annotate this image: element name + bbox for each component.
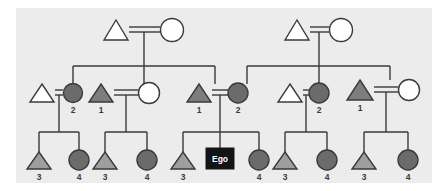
gen1-right-male-triangle[interactable] bbox=[285, 20, 309, 40]
gen3-row: 3 4 3 4 3 Ego 4 bbox=[27, 148, 418, 182]
gen1-left-male-triangle[interactable] bbox=[104, 20, 128, 40]
ego-label: Ego bbox=[212, 154, 228, 164]
gen2-person-4-circle[interactable] bbox=[139, 83, 160, 104]
gen1-couple-left bbox=[73, 19, 215, 91]
gen2-person-2-circle[interactable] bbox=[64, 84, 83, 103]
gen3-person-9-circle[interactable] bbox=[317, 150, 337, 170]
gen2-person-9-label: 1 bbox=[358, 103, 363, 113]
gen2-person-8-circle[interactable] bbox=[309, 83, 329, 103]
gen3-person-8-label: 3 bbox=[283, 172, 288, 182]
pedigree-canvas: 2 1 1 bbox=[16, 8, 432, 183]
gen3-person-4-label: 4 bbox=[145, 172, 150, 182]
gen2-person-7-triangle[interactable] bbox=[278, 84, 302, 102]
gen2-person-1-triangle[interactable] bbox=[30, 84, 54, 102]
gen2-person-6-circle[interactable] bbox=[228, 83, 248, 103]
gen2-person-3-triangle[interactable] bbox=[89, 84, 113, 102]
gen3-person-5-label: 3 bbox=[181, 172, 186, 182]
gen2-person-10-circle[interactable] bbox=[399, 80, 420, 101]
gen2-union-a: 2 bbox=[30, 84, 83, 153]
gen3-person-5-triangle[interactable] bbox=[171, 152, 195, 169]
gen3-person-9-label: 4 bbox=[325, 172, 330, 182]
gen2-person-9-triangle[interactable] bbox=[347, 80, 373, 100]
gen2-union-e: 1 bbox=[347, 80, 420, 153]
gen3-person-11-label: 4 bbox=[406, 172, 411, 182]
gen2-person-5-triangle[interactable] bbox=[187, 84, 211, 102]
gen3-person-7-label: 4 bbox=[257, 172, 262, 182]
gen3-person-2-label: 4 bbox=[77, 172, 82, 182]
gen3-person-7-circle[interactable] bbox=[249, 150, 269, 170]
pedigree-svg: 2 1 1 bbox=[16, 8, 432, 183]
gen2-union-b: 1 bbox=[89, 83, 160, 153]
gen3-person-3-triangle[interactable] bbox=[93, 152, 117, 169]
gen2-person-5-label: 1 bbox=[197, 105, 202, 115]
gen3-person-10-triangle[interactable] bbox=[352, 152, 376, 169]
gen3-person-8-triangle[interactable] bbox=[273, 152, 297, 169]
gen1-right-female-circle[interactable] bbox=[330, 19, 353, 42]
gen3-person-2-circle[interactable] bbox=[69, 150, 89, 170]
gen3-person-10-label: 3 bbox=[362, 172, 367, 182]
gen2-person-3-label: 1 bbox=[99, 105, 104, 115]
pedigree-diagram: 2 1 1 bbox=[0, 0, 448, 191]
gen2-union-c: 1 2 bbox=[183, 83, 259, 152]
gen3-person-1-label: 3 bbox=[37, 172, 42, 182]
gen2-union-d: 2 bbox=[278, 83, 329, 152]
gen1-left-female-circle[interactable] bbox=[161, 19, 184, 42]
gen3-person-3-label: 3 bbox=[103, 172, 108, 182]
gen3-person-4-circle[interactable] bbox=[137, 150, 157, 170]
gen2-person-8-label: 2 bbox=[317, 105, 322, 115]
gen1-couple-right bbox=[247, 19, 390, 85]
gen3-person-1-triangle[interactable] bbox=[27, 152, 51, 169]
gen2-person-6-label: 2 bbox=[236, 105, 241, 115]
gen3-person-11-circle[interactable] bbox=[398, 150, 418, 170]
gen2-person-2-label: 2 bbox=[71, 105, 76, 115]
